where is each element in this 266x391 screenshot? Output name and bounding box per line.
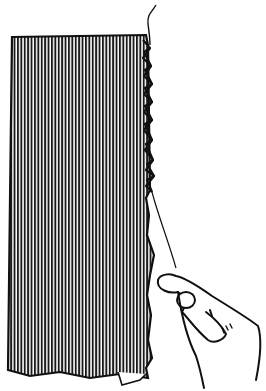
sewing-illustration: [0, 0, 266, 391]
illustration-canvas: [0, 0, 266, 391]
thread-tail: [148, 5, 156, 45]
fabric-folded-corner: [118, 372, 146, 385]
thread-to-needle: [152, 192, 176, 268]
hand: [158, 274, 260, 388]
striped-fabric: [8, 35, 154, 378]
